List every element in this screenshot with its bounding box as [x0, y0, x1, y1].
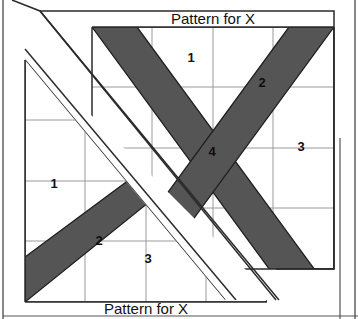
- pattern-for-x-figure: Pattern for X 1 2 4 3: [0, 0, 358, 319]
- front-panel-caption: Pattern for X: [104, 300, 188, 317]
- region-label-back-3: 3: [297, 139, 304, 154]
- region-label-front-2: 2: [95, 233, 102, 248]
- region-label-back-2: 2: [258, 75, 265, 90]
- region-label-back-4: 4: [208, 144, 216, 159]
- region-label-front-3: 3: [144, 251, 151, 266]
- region-label-back-1: 1: [187, 50, 194, 65]
- region-label-front-1: 1: [50, 176, 57, 191]
- back-panel-caption: Pattern for X: [171, 10, 255, 27]
- figure-page: Pattern for X 1 2 4 3: [0, 0, 358, 319]
